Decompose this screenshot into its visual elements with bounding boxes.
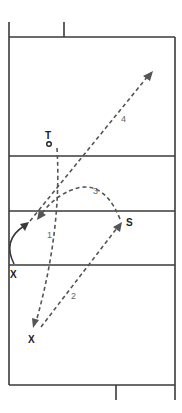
sequence-label-3: 3 — [93, 186, 98, 196]
player-setter-label: S — [126, 217, 133, 228]
target-marker-icon — [47, 142, 52, 147]
player-net-label: X — [10, 269, 17, 280]
player-back-label: X — [28, 334, 35, 345]
player-move — [10, 222, 29, 264]
path-2 — [41, 222, 122, 327]
path-4-line — [30, 76, 148, 221]
path-1 — [32, 148, 58, 328]
player-move-arrowhead-icon — [20, 222, 29, 231]
player-target-label: T — [45, 130, 51, 141]
path-3 — [37, 187, 120, 220]
sequence-label-4: 4 — [121, 114, 126, 124]
player-move-line — [10, 226, 24, 264]
path-2-line — [41, 228, 117, 327]
sequence-label-1: 1 — [47, 230, 52, 240]
sequence-label-2: 2 — [71, 291, 76, 301]
court-diagram: T S X X 1 2 3 4 — [0, 0, 182, 413]
path-1-arrowhead-icon — [32, 318, 39, 328]
